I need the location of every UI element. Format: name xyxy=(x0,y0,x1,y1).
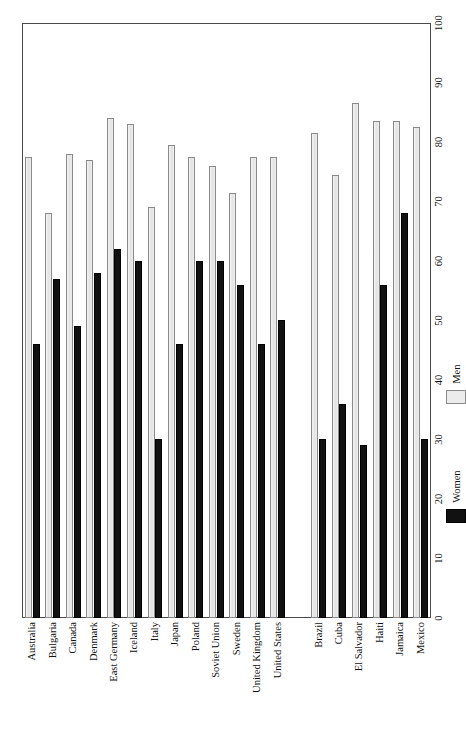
legend-swatch-icon xyxy=(446,390,466,404)
bar-men xyxy=(332,175,339,618)
bar-men xyxy=(148,207,155,618)
category-label: United Kingdom xyxy=(249,622,265,693)
category-label: Mexico xyxy=(413,622,429,654)
bar-women xyxy=(278,321,285,619)
bar-men xyxy=(127,124,134,618)
legend-item-men[interactable]: Men xyxy=(446,365,466,404)
axis-tick-label: 100 xyxy=(433,15,444,31)
category-axis-labels: AustraliaBulgariaCanadaDenmarkEast Germa… xyxy=(22,618,431,738)
axis-tick-label: 40 xyxy=(433,375,444,386)
category-label: Italy xyxy=(147,622,163,641)
value-axis-labels: 0102030405060708090100 xyxy=(433,23,455,618)
bar-women xyxy=(217,261,224,618)
bar-men xyxy=(45,213,52,618)
legend-swatch-icon xyxy=(446,509,466,523)
category-label: Brazil xyxy=(311,622,327,648)
axis-tick-label: 20 xyxy=(433,494,444,505)
bar-men xyxy=(188,157,195,618)
axis-tick-label: 0 xyxy=(433,615,444,620)
bar-women xyxy=(53,279,60,618)
category-label: Jamaica xyxy=(392,622,408,656)
bar-women xyxy=(237,285,244,618)
category-label: Japan xyxy=(167,622,183,646)
bar-men xyxy=(393,121,400,618)
legend-label: Men xyxy=(451,365,462,384)
category-label: El Salvador xyxy=(351,622,367,671)
bar-men xyxy=(107,118,114,618)
category-label: Australia xyxy=(24,622,40,661)
axis-tick-label: 10 xyxy=(433,553,444,564)
category-label: Denmark xyxy=(86,622,102,661)
bar-men xyxy=(86,160,93,618)
bar-men xyxy=(25,157,32,618)
category-label: Bulgaria xyxy=(45,622,61,658)
category-label: Iceland xyxy=(126,622,142,653)
axis-tick-label: 30 xyxy=(433,434,444,445)
bar-women xyxy=(74,326,81,618)
category-label: Poland xyxy=(188,622,204,651)
bar-men xyxy=(270,157,277,618)
category-label: Cuba xyxy=(331,622,347,644)
legend-label: Women xyxy=(451,470,462,502)
axis-tick-label: 60 xyxy=(433,256,444,267)
bar-men xyxy=(229,193,236,618)
category-label: Canada xyxy=(65,622,81,654)
bar-women xyxy=(176,344,183,618)
axis-tick-label: 90 xyxy=(433,77,444,88)
category-label: East Germany xyxy=(106,622,122,682)
bar-women xyxy=(135,261,142,618)
bar-women xyxy=(94,273,101,618)
bar-men xyxy=(209,166,216,618)
bar-women xyxy=(155,440,162,619)
bar-men xyxy=(66,154,73,618)
bar-women xyxy=(33,344,40,618)
axis-tick-label: 70 xyxy=(433,196,444,207)
bar-women xyxy=(380,285,387,618)
category-label: Sweden xyxy=(229,622,245,655)
bar-men xyxy=(373,121,380,618)
bar-women xyxy=(401,213,408,618)
bar-women xyxy=(258,344,265,618)
category-label: Haiti xyxy=(372,622,388,643)
legend-item-women[interactable]: Women xyxy=(446,470,466,522)
bar-men xyxy=(352,103,359,618)
bar-women xyxy=(339,404,346,618)
bar-women xyxy=(196,261,203,618)
bar-men xyxy=(413,127,420,618)
bar-series-layer xyxy=(22,23,431,618)
bar-women xyxy=(421,440,428,619)
bar-women xyxy=(114,249,121,618)
category-label: Soviet Union xyxy=(208,622,224,678)
axis-tick-label: 80 xyxy=(433,137,444,148)
bar-men xyxy=(250,157,257,618)
category-label: United States xyxy=(270,622,286,678)
bar-men xyxy=(311,133,318,618)
bar-women xyxy=(319,440,326,619)
bar-men xyxy=(168,145,175,618)
bar-women xyxy=(360,445,367,618)
axis-tick-label: 50 xyxy=(433,315,444,326)
